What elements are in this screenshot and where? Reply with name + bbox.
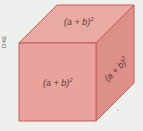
cube-diagram: (a + b)2 (a + b)2 (a + b)2 xyxy=(0,0,143,131)
front-face-label: (a + b)2 xyxy=(43,77,73,88)
dot-mark xyxy=(118,110,119,111)
top-face-label: (a + b)2 xyxy=(64,16,94,27)
